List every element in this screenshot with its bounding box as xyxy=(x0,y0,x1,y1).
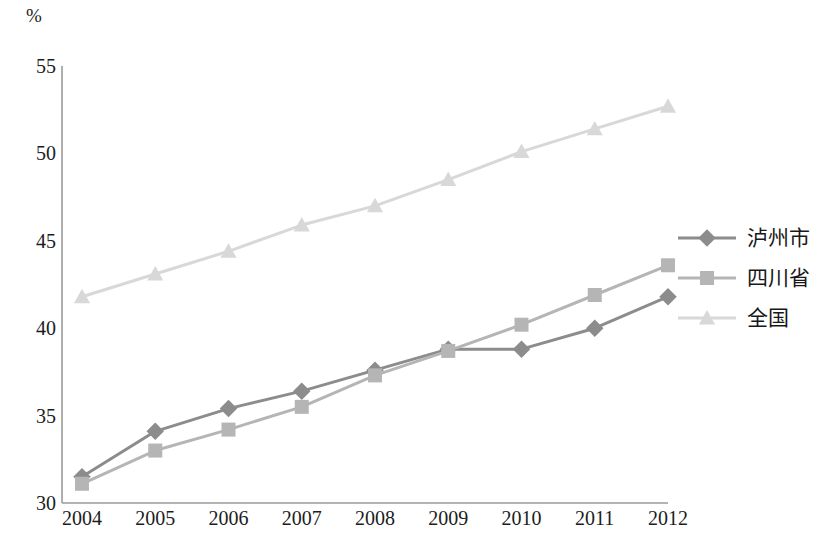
legend-item-四川省[interactable]: 四川省 xyxy=(676,258,816,298)
data-point-marker xyxy=(293,382,311,400)
legend-item-泸州市[interactable]: 泸州市 xyxy=(676,218,816,258)
data-point-marker xyxy=(659,288,677,306)
data-point-marker xyxy=(220,400,238,418)
data-point-marker xyxy=(586,319,604,337)
data-point-marker xyxy=(660,98,676,112)
series-全国 xyxy=(74,98,676,303)
series-line-泸州市 xyxy=(82,297,668,477)
data-point-marker xyxy=(148,444,162,458)
data-point-marker xyxy=(368,368,382,382)
data-point-marker xyxy=(661,258,675,272)
data-point-marker xyxy=(147,423,165,441)
data-point-marker xyxy=(515,318,529,332)
legend-label: 全国 xyxy=(747,308,789,329)
triangle-marker-icon xyxy=(676,307,738,329)
data-point-marker xyxy=(75,477,89,491)
legend-item-全国[interactable]: 全国 xyxy=(676,298,816,338)
data-point-marker xyxy=(441,344,455,358)
diamond-marker-icon xyxy=(676,227,738,249)
legend-label: 泸州市 xyxy=(747,228,810,249)
data-point-marker xyxy=(295,400,309,414)
series-四川省 xyxy=(75,258,675,491)
chart-legend: 泸州市四川省全国 xyxy=(676,218,816,338)
data-series-layer xyxy=(73,98,677,491)
series-泸州市 xyxy=(73,288,677,486)
line-chart: % 555045403530 2004200520062007200820092… xyxy=(0,0,816,535)
data-point-marker xyxy=(222,423,236,437)
legend-label: 四川省 xyxy=(747,268,810,289)
data-point-marker xyxy=(513,340,531,358)
square-marker-icon xyxy=(676,267,738,289)
data-point-marker xyxy=(588,288,602,302)
